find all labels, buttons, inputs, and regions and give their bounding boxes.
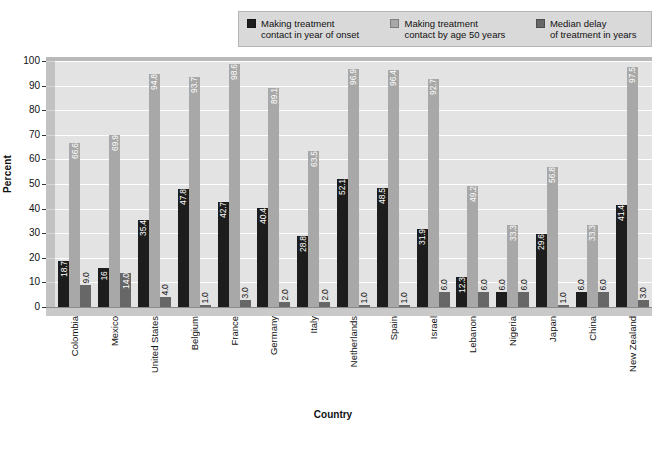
legend-swatch-by-age-50 xyxy=(390,19,399,28)
bar-groups: 18.766.69.01669.914.035.494.84.047.893.7… xyxy=(55,57,652,307)
bar: 69.9 xyxy=(109,135,120,307)
bar: 18.7 xyxy=(58,261,69,307)
bar-value-label: 96.9 xyxy=(348,69,358,85)
x-axis-tick-label: Spain xyxy=(373,316,413,408)
bar: 47.8 xyxy=(178,189,189,307)
bar: 3.0 xyxy=(638,300,649,307)
y-axis-tick-mark xyxy=(42,184,46,185)
bar-value-label: 6.0 xyxy=(479,280,489,291)
gridline-side xyxy=(46,135,55,136)
x-axis-tick-text: Israel xyxy=(428,316,439,339)
y-axis-tick-mark xyxy=(42,233,46,234)
y-axis-tick-mark xyxy=(42,282,46,283)
bar-value-label: 6.0 xyxy=(576,280,586,291)
gridline-side xyxy=(46,86,55,87)
bar: 31.9 xyxy=(417,229,428,307)
gridline-side xyxy=(46,209,55,210)
legend-label-median-delay: Median delay of treatment in years xyxy=(550,18,637,40)
x-axis-tick-label: United States xyxy=(135,316,175,408)
x-axis-tick-text: France xyxy=(229,316,240,346)
bar-group: 40.489.12.0 xyxy=(254,57,294,307)
bar: 98.6 xyxy=(229,64,240,307)
bar: 49.2 xyxy=(467,186,478,307)
x-axis-tick-label: Mexico xyxy=(95,316,135,408)
y-axis-tick-label: 30 xyxy=(2,227,40,238)
bar: 89.1 xyxy=(268,88,279,307)
bar-value-label: 35.4 xyxy=(138,220,148,236)
figure-caption xyxy=(6,447,646,456)
bar-value-label: 2.0 xyxy=(280,289,290,300)
y-axis-tick-label: 0 xyxy=(2,301,40,312)
bar: 29.6 xyxy=(536,234,547,307)
bar-value-label: 1.0 xyxy=(558,292,568,303)
y-axis-tick-label: 60 xyxy=(2,153,40,164)
bar-value-label: 9.0 xyxy=(81,272,91,283)
bar-value-label: 16 xyxy=(99,271,109,280)
y-axis-tick-mark xyxy=(42,258,46,259)
bar-value-label: 92.7 xyxy=(428,79,438,95)
bar: 63.5 xyxy=(308,151,319,307)
legend-item-median-delay: Median delay of treatment in years xyxy=(536,18,643,40)
bar: 3.0 xyxy=(240,300,251,307)
gridline-side xyxy=(46,61,55,62)
x-axis-tick-text: United States xyxy=(149,316,160,373)
x-axis-tick-label: China xyxy=(572,316,612,408)
y-axis-tick-label: 50 xyxy=(2,178,40,189)
bar-value-label: 6.0 xyxy=(598,280,608,291)
y-axis-tick-mark xyxy=(42,209,46,210)
x-axis-tick-text: Netherlands xyxy=(348,316,359,367)
bar: 33.3 xyxy=(507,225,518,307)
bar: 33.3 xyxy=(587,225,598,307)
y-axis-tick-label: 10 xyxy=(2,276,40,287)
y-axis-tick-mark xyxy=(42,86,46,87)
gridline-side xyxy=(46,282,55,283)
bar: 6.0 xyxy=(478,292,489,307)
bar-value-label: 40.4 xyxy=(258,208,268,224)
x-axis-tick-text: Germany xyxy=(268,316,279,355)
x-axis-tick-text: Nigeria xyxy=(507,316,518,346)
legend-swatch-onset xyxy=(247,19,256,28)
bar-value-label: 31.9 xyxy=(417,229,427,245)
bar-group: 52.196.91.0 xyxy=(334,57,374,307)
x-axis-tick-label: New Zealand xyxy=(612,316,652,408)
bar: 35.4 xyxy=(138,220,149,307)
bar-value-label: 33.3 xyxy=(508,225,518,241)
bar: 12.3 xyxy=(456,277,467,307)
x-axis-tick-label: Netherlands xyxy=(334,316,374,408)
bar: 9.0 xyxy=(80,285,91,307)
bar-group: 18.766.69.0 xyxy=(55,57,95,307)
bar-value-label: 93.7 xyxy=(189,77,199,93)
bar-group: 48.596.41.0 xyxy=(373,57,413,307)
bar-value-label: 1.0 xyxy=(200,292,210,303)
y-axis-tick-label: 20 xyxy=(2,252,40,263)
x-axis-tick-text: Lebanon xyxy=(467,316,478,353)
bar-group: 31.992.76.0 xyxy=(413,57,453,307)
x-axis-tick-text: New Zealand xyxy=(627,316,638,372)
bar-value-label: 69.9 xyxy=(110,135,120,151)
bar-value-label: 98.6 xyxy=(229,65,239,81)
bar-group: 35.494.84.0 xyxy=(135,57,175,307)
x-axis-tick-label: Germany xyxy=(254,316,294,408)
x-axis-tick-text: Belgium xyxy=(189,316,200,350)
y-axis-tick-mark xyxy=(42,159,46,160)
bar: 96.9 xyxy=(348,69,359,307)
x-axis-tick-text: Japan xyxy=(547,316,558,342)
x-axis-base xyxy=(46,307,652,316)
chart-legend: Making treatment contact in year of onse… xyxy=(238,11,652,47)
x-axis-tick-label: Colombia xyxy=(55,316,95,408)
bar: 14.0 xyxy=(120,273,131,307)
bar-value-label: 96.4 xyxy=(388,70,398,86)
bar-value-label: 14.0 xyxy=(121,273,131,289)
bar-value-label: 63.5 xyxy=(309,151,319,167)
gridline-side xyxy=(46,258,55,259)
gridline-side xyxy=(46,233,55,234)
bar: 28.8 xyxy=(297,236,308,307)
bar-group: 1669.914.0 xyxy=(95,57,135,307)
x-axis-tick-label: Israel xyxy=(413,316,453,408)
bar-value-label: 3.0 xyxy=(240,287,250,298)
bar-value-label: 94.8 xyxy=(149,74,159,90)
bar-group: 41.497.53.0 xyxy=(612,57,652,307)
gridline-side xyxy=(46,159,55,160)
bar: 6.0 xyxy=(496,292,507,307)
y-axis-tick-label: 70 xyxy=(2,129,40,140)
